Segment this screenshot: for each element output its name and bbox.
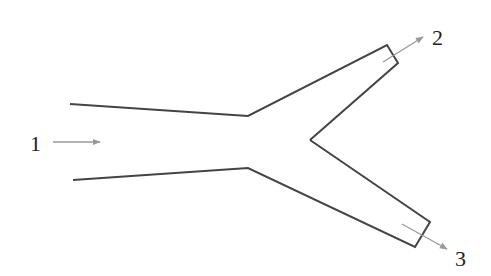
- label-inlet: 1: [30, 131, 41, 156]
- label-outlet-upper: 2: [432, 25, 443, 50]
- label-outlet-lower: 3: [455, 246, 466, 271]
- pipe-lower-wall: [73, 140, 430, 247]
- y-branch-diagram: 1 2 3: [0, 0, 491, 276]
- outlet-lower-flow-arrow: [402, 224, 447, 249]
- pipe-upper-wall: [70, 45, 398, 140]
